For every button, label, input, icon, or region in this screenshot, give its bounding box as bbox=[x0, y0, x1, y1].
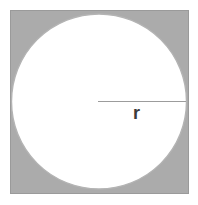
radius-label: r bbox=[133, 104, 140, 122]
geometry-figure: r bbox=[0, 0, 198, 205]
geometry-canvas bbox=[0, 0, 198, 205]
